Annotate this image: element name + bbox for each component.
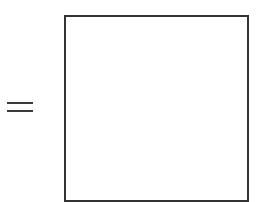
- answer-value: [66, 17, 247, 200]
- answer-box[interactable]: [64, 15, 249, 202]
- equals-top-bar: [7, 102, 33, 104]
- equals-icon: [7, 102, 33, 112]
- equals-bottom-bar: [7, 110, 33, 112]
